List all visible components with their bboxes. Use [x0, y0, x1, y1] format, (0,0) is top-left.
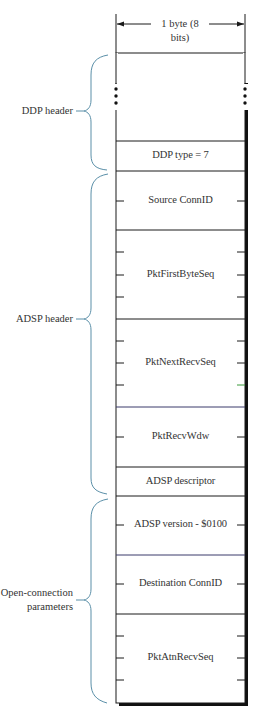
- field-pkt-recv-wdw: PktRecvWdw: [116, 430, 245, 441]
- field-adsp-descriptor: ADSP descriptor: [116, 475, 245, 486]
- brace-ddp-header: [84, 55, 108, 170]
- brace-open-connection: [84, 499, 108, 703]
- group-braces: [76, 55, 108, 703]
- group-label-open-connection-line2: parameters: [0, 600, 73, 614]
- group-label-open-connection: Open-connection parameters: [0, 586, 73, 614]
- group-label-open-connection-line1: Open-connection: [0, 586, 73, 600]
- brace-adsp-header: [84, 174, 108, 494]
- group-label-ddp-header: DDP header: [0, 104, 73, 118]
- arrow-left-icon: [117, 22, 124, 27]
- field-pkt-first-byte-seq: PktFirstByteSeq: [116, 268, 245, 279]
- field-pkt-atn-recv-seq: PktAtnRecvSeq: [116, 651, 245, 662]
- byte-width-label: 1 byte (8 bits): [151, 17, 209, 45]
- field-pkt-next-recv-seq: PktNextRecvSeq: [116, 356, 245, 367]
- field-source-connid: Source ConnID: [116, 194, 245, 205]
- field-ddp-type: DDP type = 7: [116, 149, 245, 160]
- group-label-adsp-header: ADSP header: [0, 312, 73, 326]
- adsp-packet-format-diagram: 1 byte (8 bits) DDP header ADSP header O…: [0, 0, 271, 716]
- field-destination-connid: Destination ConnID: [116, 577, 245, 588]
- field-adsp-version: ADSP version - $0100: [116, 518, 245, 529]
- arrow-right-icon: [237, 22, 244, 27]
